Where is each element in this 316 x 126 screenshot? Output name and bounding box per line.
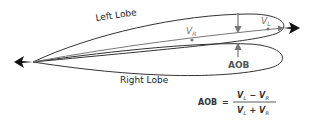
left-lobe-outline <box>33 14 284 62</box>
formula-equals: = <box>222 98 229 107</box>
v-r-point <box>190 38 193 41</box>
right-aircraft-icon <box>283 22 300 34</box>
aob-label: AOB <box>228 60 250 70</box>
left-aircraft-icon <box>14 56 33 68</box>
v-l-point <box>266 27 269 30</box>
formula-numerator: VL−VR <box>237 91 269 101</box>
left-lobe-label: Left Lobe <box>95 7 138 23</box>
formula-denominator: VL+VR <box>237 106 269 116</box>
v-r-label: VR <box>186 26 196 37</box>
formula-lhs: AOB <box>198 98 217 107</box>
v-l-label: VL <box>261 16 271 27</box>
aob-formula: AOB = VL−VR VL+VR <box>198 91 276 116</box>
right-lobe-label: Right Lobe <box>120 75 169 85</box>
antenna-lobe-diagram: VR VL AOB Left Lobe Right Lobe AOB = VL−… <box>0 0 316 126</box>
